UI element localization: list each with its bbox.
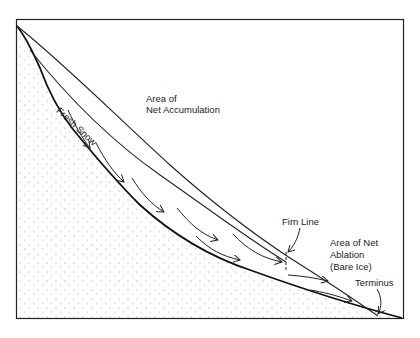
terminus-label: Terminus [355, 277, 394, 288]
bedrock-area [17, 26, 400, 318]
firn-line-label: Firn Line [282, 216, 319, 227]
ablation-label-line3: (Bare Ice) [330, 261, 372, 272]
firn-line-pointer [288, 228, 300, 252]
accumulation-label-line1: Area of [146, 93, 177, 104]
terminus-pointer [377, 289, 381, 314]
ablation-label-line2: Ablation [330, 249, 364, 260]
ablation-label-line1: Area of Net [330, 237, 378, 248]
accumulation-label-line2: Net Accumulation [146, 104, 220, 115]
